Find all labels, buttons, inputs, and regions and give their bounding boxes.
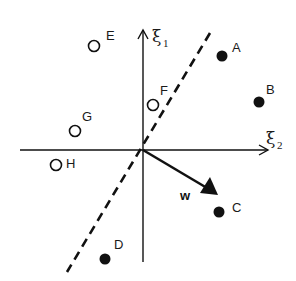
svg-text:G: G [82, 109, 92, 124]
weight-vector [143, 150, 207, 188]
point-B: B [254, 82, 275, 108]
svg-text:E: E [106, 28, 115, 43]
point-D: D [100, 237, 124, 265]
svg-text:A: A [232, 40, 241, 55]
point-F: F [148, 83, 169, 111]
xi1-axis-subscript: 1 [163, 37, 169, 49]
svg-text:C: C [232, 200, 241, 215]
xi1-axis-label: ξ [152, 26, 161, 46]
svg-text:D: D [114, 237, 123, 252]
svg-text:H: H [66, 156, 75, 171]
xi2-axis-subscript: 2 [277, 139, 283, 151]
decision-boundary [67, 33, 210, 272]
svg-text:F: F [160, 83, 168, 98]
perceptron-diagram: ξ 1 ξ 2 w A B C D E F G H [0, 0, 296, 281]
point-G: G [70, 109, 93, 137]
point-A: A [217, 40, 242, 62]
xi2-axis-label: ξ [266, 128, 275, 148]
point-E: E [89, 28, 116, 52]
point-C: C [214, 200, 242, 218]
weight-vector-label: w [179, 188, 191, 203]
svg-text:B: B [266, 82, 275, 97]
point-H: H [51, 156, 76, 171]
